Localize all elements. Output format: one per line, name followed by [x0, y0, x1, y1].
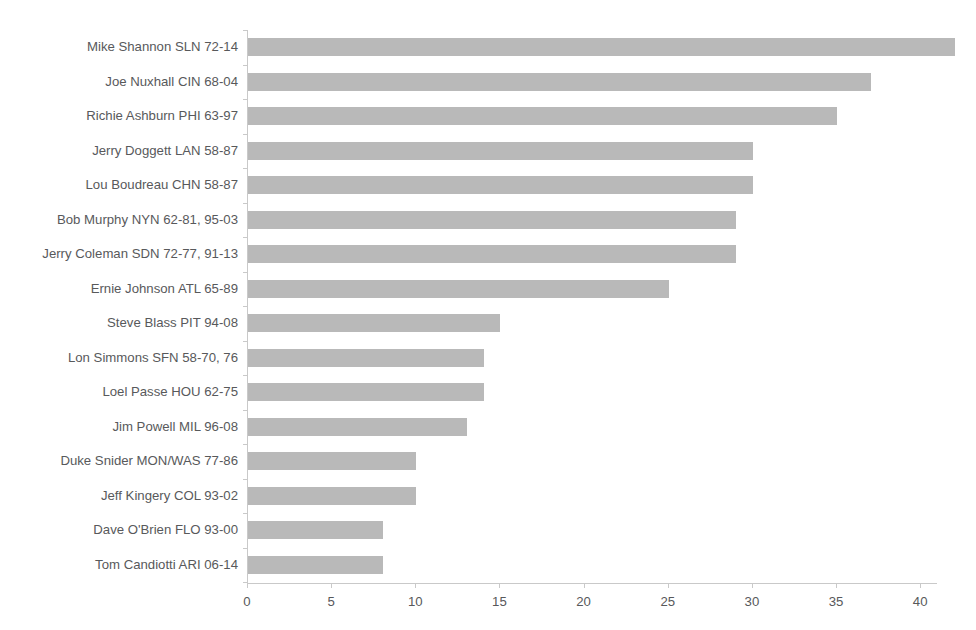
category-label: Lon Simmons SFN 58-70, 76 [0, 341, 238, 375]
bar-track [248, 237, 960, 271]
bar-row: Tom Candiotti ARI 06-14 [0, 548, 976, 582]
bar-track [248, 513, 960, 547]
y-axis-tick [243, 306, 248, 307]
bar-row: Ernie Johnson ATL 65-89 [0, 272, 976, 306]
bar [248, 211, 736, 229]
x-axis-tick-label: 0 [217, 594, 277, 609]
category-label: Jerry Coleman SDN 72-77, 91-13 [0, 237, 238, 271]
category-label: Jerry Doggett LAN 58-87 [0, 134, 238, 168]
category-label: Ernie Johnson ATL 65-89 [0, 272, 238, 306]
bar [248, 418, 467, 436]
bar-row: Jim Powell MIL 96-08 [0, 410, 976, 444]
bar-track [248, 99, 960, 133]
y-axis-tick [243, 410, 248, 411]
x-axis-tick [920, 583, 921, 588]
bar-track [248, 203, 960, 237]
category-label: Mike Shannon SLN 72-14 [0, 30, 238, 64]
category-label: Jeff Kingery COL 93-02 [0, 479, 238, 513]
bar-row: Dave O'Brien FLO 93-00 [0, 513, 976, 547]
category-label: Lou Boudreau CHN 58-87 [0, 168, 238, 202]
y-axis-tick [243, 341, 248, 342]
x-axis-tick-label: 10 [385, 594, 445, 609]
bar [248, 73, 871, 91]
bar-track [248, 548, 960, 582]
bar [248, 521, 383, 539]
category-label: Loel Passe HOU 62-75 [0, 375, 238, 409]
bar-track [248, 444, 960, 478]
bar-track [248, 306, 960, 340]
bar-track [248, 134, 960, 168]
category-label: Joe Nuxhall CIN 68-04 [0, 65, 238, 99]
bar-row: Joe Nuxhall CIN 68-04 [0, 65, 976, 99]
bar-track [248, 341, 960, 375]
bar [248, 314, 500, 332]
bar [248, 349, 484, 367]
category-label: Bob Murphy NYN 62-81, 95-03 [0, 203, 238, 237]
bar-row: Jerry Doggett LAN 58-87 [0, 134, 976, 168]
bar-row: Jerry Coleman SDN 72-77, 91-13 [0, 237, 976, 271]
bar-row: Mike Shannon SLN 72-14 [0, 30, 976, 64]
bar [248, 107, 837, 125]
y-axis-tick [243, 237, 248, 238]
bar-row: Duke Snider MON/WAS 77-86 [0, 444, 976, 478]
category-label: Steve Blass PIT 94-08 [0, 306, 238, 340]
category-label: Tom Candiotti ARI 06-14 [0, 548, 238, 582]
x-axis-tick [331, 583, 332, 588]
y-axis-tick [243, 375, 248, 376]
bar-chart: Mike Shannon SLN 72-14Joe Nuxhall CIN 68… [0, 0, 976, 630]
bar-track [248, 410, 960, 444]
x-axis-tick-label: 5 [301, 594, 361, 609]
bar-row: Jeff Kingery COL 93-02 [0, 479, 976, 513]
y-axis-tick [243, 134, 248, 135]
chart-title [0, 0, 976, 3]
bar-row: Loel Passe HOU 62-75 [0, 375, 976, 409]
x-axis-tick-label: 20 [554, 594, 614, 609]
x-axis-tick [499, 583, 500, 588]
bar-row: Bob Murphy NYN 62-81, 95-03 [0, 203, 976, 237]
bar [248, 280, 669, 298]
bar-row: Richie Ashburn PHI 63-97 [0, 99, 976, 133]
x-axis-tick-label: 40 [890, 594, 950, 609]
category-label: Richie Ashburn PHI 63-97 [0, 99, 238, 133]
bar [248, 38, 955, 56]
bar-track [248, 375, 960, 409]
x-axis-tick-label: 25 [638, 594, 698, 609]
x-axis-tick [584, 583, 585, 588]
x-axis-tick [668, 583, 669, 588]
y-axis-tick [243, 272, 248, 273]
bar [248, 176, 753, 194]
bar-row: Lon Simmons SFN 58-70, 76 [0, 341, 976, 375]
bar-row: Steve Blass PIT 94-08 [0, 306, 976, 340]
x-axis-tick-label: 15 [469, 594, 529, 609]
y-axis-tick [243, 203, 248, 204]
category-label: Dave O'Brien FLO 93-00 [0, 513, 238, 547]
bar-track [248, 168, 960, 202]
y-axis-tick [243, 444, 248, 445]
category-label: Jim Powell MIL 96-08 [0, 410, 238, 444]
y-axis-tick [243, 30, 248, 31]
y-axis-tick [243, 479, 248, 480]
category-label: Duke Snider MON/WAS 77-86 [0, 444, 238, 478]
bar [248, 487, 416, 505]
bar [248, 245, 736, 263]
y-axis-tick [243, 513, 248, 514]
bar [248, 383, 484, 401]
bar-track [248, 30, 960, 64]
bar [248, 142, 753, 160]
bar [248, 452, 416, 470]
y-axis-tick [243, 99, 248, 100]
bar-row: Lou Boudreau CHN 58-87 [0, 168, 976, 202]
x-axis-line [247, 583, 937, 584]
x-axis-tick [415, 583, 416, 588]
x-axis-tick [752, 583, 753, 588]
bar-track [248, 479, 960, 513]
bar [248, 556, 383, 574]
x-axis-tick [247, 583, 248, 588]
y-axis-tick [243, 548, 248, 549]
x-axis-tick-label: 35 [806, 594, 866, 609]
x-axis-tick [836, 583, 837, 588]
x-axis-tick-label: 30 [722, 594, 782, 609]
y-axis-tick [243, 168, 248, 169]
bar-track [248, 65, 960, 99]
y-axis-tick [243, 65, 248, 66]
